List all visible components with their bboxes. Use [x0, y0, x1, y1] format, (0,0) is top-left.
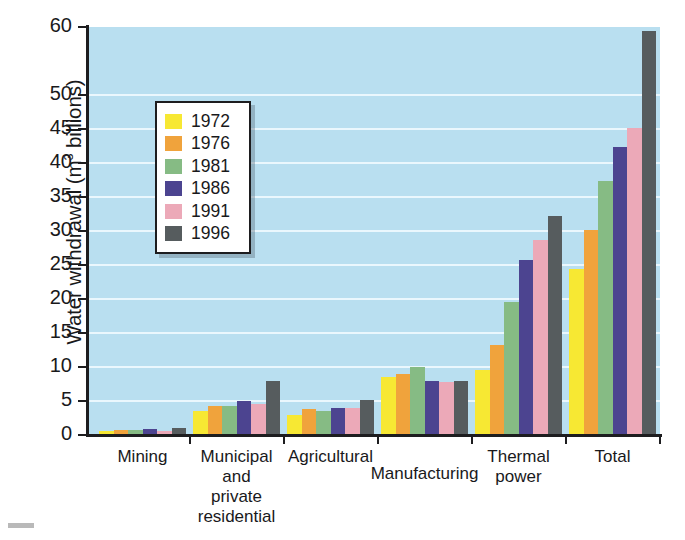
legend-item: 1981 — [165, 155, 243, 178]
y-axis-tick-label: 30 — [26, 218, 72, 241]
legend: 197219761981198619911996 — [155, 101, 251, 254]
x-axis-tick — [189, 435, 191, 444]
y-axis-tick — [78, 332, 87, 334]
bar — [360, 400, 375, 435]
bar — [548, 216, 563, 435]
bar-group — [287, 27, 374, 435]
y-axis-tick-label: 40 — [26, 150, 72, 173]
y-axis-tick-label: 20 — [26, 286, 72, 309]
y-axis-tick — [78, 400, 87, 402]
y-axis-tick — [78, 366, 87, 368]
bar — [613, 147, 628, 435]
x-axis-tick — [377, 435, 379, 444]
bar — [331, 408, 346, 435]
legend-swatch — [165, 114, 182, 129]
y-axis-tick-label: 45 — [26, 116, 72, 139]
x-axis-label-line: and — [177, 467, 297, 487]
legend-swatch — [165, 181, 182, 196]
x-axis-label-line: power — [464, 467, 574, 487]
bar — [237, 401, 252, 435]
x-axis-tick — [659, 435, 661, 444]
y-axis-tick — [78, 196, 87, 198]
bar — [316, 411, 331, 435]
legend-label: 1996 — [191, 225, 230, 243]
y-axis-title: Water withdrawal (m3 billions) — [62, 12, 86, 412]
bar — [519, 260, 534, 435]
y-axis-tick-label: 15 — [26, 320, 72, 343]
x-axis-label-line: Thermal — [464, 447, 574, 467]
bar — [345, 408, 360, 435]
bar — [490, 345, 505, 435]
legend-label: 1972 — [191, 113, 230, 131]
bar-group — [475, 27, 562, 435]
legend-label: 1976 — [191, 135, 230, 153]
bar — [533, 240, 548, 435]
bar — [475, 370, 490, 435]
bar — [454, 381, 469, 435]
bar — [208, 406, 223, 435]
y-axis-tick — [78, 94, 87, 96]
bar — [569, 269, 584, 435]
legend-swatch — [165, 136, 182, 151]
scan-artifact-mark — [8, 523, 34, 528]
bar — [425, 381, 440, 435]
y-axis-tick-label: 0 — [26, 422, 72, 445]
y-axis-tick — [78, 162, 87, 164]
y-axis-tick — [78, 298, 87, 300]
bar — [251, 404, 266, 435]
y-axis-tick — [78, 230, 87, 232]
x-axis-label-line: residential — [177, 507, 297, 527]
bar — [584, 230, 599, 435]
chart-figure: Water withdrawal (m3 billions) 051015202… — [0, 0, 685, 540]
legend-item: 1991 — [165, 200, 243, 223]
bar — [266, 381, 281, 435]
bar — [302, 409, 317, 435]
legend-swatch — [165, 204, 182, 219]
bar — [193, 411, 208, 435]
legend-label: 1981 — [191, 158, 230, 176]
bar — [222, 406, 237, 435]
y-axis-tick-label: 25 — [26, 252, 72, 275]
bar — [627, 128, 642, 435]
bar — [396, 374, 411, 435]
legend-item: 1972 — [165, 110, 243, 133]
y-axis-tick-label: 35 — [26, 184, 72, 207]
x-axis-label: Thermalpower — [464, 447, 574, 487]
y-axis-tick — [78, 434, 87, 436]
legend-item: 1986 — [165, 178, 243, 201]
y-axis-tick-label: 60 — [26, 14, 72, 37]
x-axis-label: Total — [563, 447, 663, 467]
y-axis-tick — [78, 128, 87, 130]
x-axis-label-line: Total — [563, 447, 663, 467]
x-axis-line — [86, 434, 662, 437]
y-axis-tick-label: 10 — [26, 354, 72, 377]
legend-item: 1976 — [165, 133, 243, 156]
x-axis-tick — [471, 435, 473, 444]
bar-group — [569, 27, 656, 435]
bar — [642, 31, 657, 435]
y-axis-tick — [78, 26, 87, 28]
legend-label: 1991 — [191, 203, 230, 221]
y-axis-tick — [78, 264, 87, 266]
bar-group — [381, 27, 468, 435]
y-axis-tick-label: 50 — [26, 82, 72, 105]
legend-swatch — [165, 159, 182, 174]
legend-swatch — [165, 226, 182, 241]
bar — [504, 302, 519, 435]
bar — [381, 377, 396, 435]
x-axis-tick — [565, 435, 567, 444]
bar — [439, 382, 454, 435]
bar — [410, 367, 425, 435]
bar — [598, 181, 613, 435]
x-axis-label-line: private — [177, 487, 297, 507]
y-axis-tick-label: 5 — [26, 388, 72, 411]
legend-item: 1996 — [165, 223, 243, 246]
legend-label: 1986 — [191, 180, 230, 198]
x-axis-tick — [283, 435, 285, 444]
bar — [287, 415, 302, 435]
